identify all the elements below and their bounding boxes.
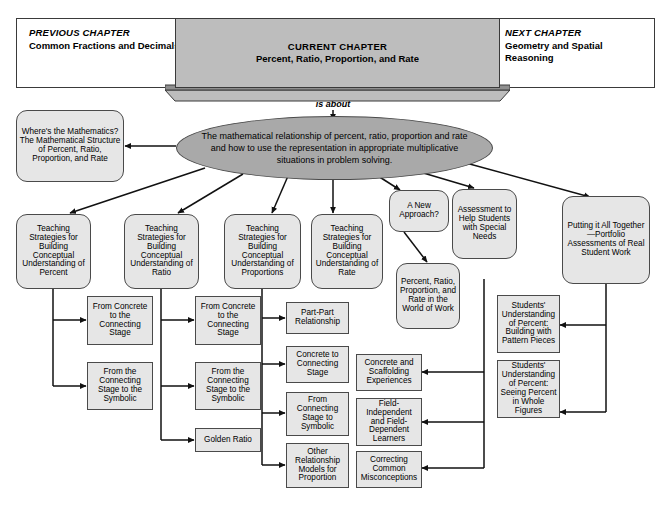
proportions-child-label: From Connecting Stage to Symbolic [287, 396, 348, 431]
branch-teaching-strategies-percent: Teaching Strategies for Building Concept… [16, 214, 91, 289]
branch-portfolio-assessments: Putting it All Together—Portfolio Assess… [562, 196, 650, 284]
current-chapter-kicker: CURRENT CHAPTER [286, 42, 390, 52]
assessment-child-label: Correcting Common Misconceptions [357, 456, 421, 483]
branch-label: Assessment to Help Students with Special… [453, 206, 516, 241]
proportions-child-box: Other Relationship Models for Proportion [286, 443, 349, 488]
percent-child-box: From the Connecting Stage to the Symboli… [87, 362, 153, 410]
current-chapter-card: CURRENT CHAPTER Percent, Ratio, Proporti… [175, 18, 500, 88]
current-chapter-title: Percent, Ratio, Proportion, and Rate [254, 54, 421, 64]
branch-label: Putting it All Together—Portfolio Assess… [563, 222, 649, 257]
proportions-child-box: From Connecting Stage to Symbolic [286, 392, 349, 436]
next-chapter-card: NEXT CHAPTER Geometry and Spatial Reason… [492, 18, 655, 88]
branch-a-new-approach: A New Approach? [389, 190, 449, 232]
branch-label: Teaching Strategies for Building Concept… [312, 225, 382, 278]
ratio-child-box: Golden Ratio [195, 428, 261, 452]
ratio-child-label: From Concrete to the Connecting Stage [196, 303, 260, 338]
next-chapter-title: Geometry and Spatial Reasoning [503, 40, 646, 64]
portfolio-child-box: Students' Understanding of Percent: Buil… [497, 295, 560, 353]
previous-chapter-title: Common Fractions and Decimals [27, 40, 193, 52]
central-concept-text: The mathematical relationship of percent… [177, 130, 492, 166]
ratio-child-label: Golden Ratio [202, 436, 254, 445]
previous-chapter-kicker: PREVIOUS CHAPTER [27, 28, 193, 38]
assessment-child-label: Concrete and Scaffolding Experiences [357, 359, 421, 386]
portfolio-child-box: Students' Understanding of Percent: Seei… [497, 360, 560, 418]
branch-assessment-special-needs: Assessment to Help Students with Special… [452, 189, 517, 259]
world-of-work-box: Percent, Ratio, Proportion, and Rate in … [396, 263, 460, 329]
percent-child-label: From the Connecting Stage to the Symboli… [88, 368, 152, 403]
branch-label: A New Approach? [390, 202, 448, 220]
assessment-child-box: Concrete and Scaffolding Experiences [356, 354, 422, 391]
proportions-child-label: Other Relationship Models for Proportion [287, 448, 348, 483]
ratio-child-box: From the Connecting Stage to the Symboli… [195, 362, 261, 410]
branch-label: Teaching Strategies for Building Concept… [17, 225, 90, 278]
assessment-child-label: Field-Independent and Field-Dependent Le… [357, 400, 421, 444]
ratio-child-box: From Concrete to the Connecting Stage [195, 296, 261, 345]
branch-teaching-strategies-proportions: Teaching Strategies for Building Concept… [224, 214, 301, 289]
portfolio-child-label: Students' Understanding of Percent: Seei… [498, 362, 559, 415]
ratio-child-label: From the Connecting Stage to the Symboli… [196, 368, 260, 403]
proportions-child-label: Part-Part Relationship [287, 309, 348, 327]
branch-teaching-strategies-ratio: Teaching Strategies for Building Concept… [124, 214, 199, 289]
portfolio-child-label: Students' Understanding of Percent: Buil… [498, 302, 559, 346]
wheres-the-mathematics-text: Where's the Mathematics? The Mathematica… [17, 128, 123, 163]
branch-teaching-strategies-rate: Teaching Strategies for Building Concept… [311, 214, 383, 289]
percent-child-box: From Concrete to the Connecting Stage [87, 296, 153, 345]
diagram-canvas: PREVIOUS CHAPTER Common Fractions and De… [0, 0, 667, 521]
branch-label: Teaching Strategies for Building Concept… [225, 225, 300, 278]
proportions-child-label: Concrete to Connecting Stage [287, 351, 348, 378]
assessment-child-box: Correcting Common Misconceptions [356, 451, 422, 488]
central-concept-oval: The mathematical relationship of percent… [176, 116, 493, 180]
proportions-child-box: Part-Part Relationship [286, 302, 349, 334]
assessment-child-box: Field-Independent and Field-Dependent Le… [356, 398, 422, 446]
next-chapter-kicker: NEXT CHAPTER [503, 28, 646, 38]
wheres-the-mathematics-box: Where's the Mathematics? The Mathematica… [16, 110, 124, 182]
percent-child-label: From Concrete to the Connecting Stage [88, 303, 152, 338]
proportions-child-box: Concrete to Connecting Stage [286, 346, 349, 383]
world-of-work-text: Percent, Ratio, Proportion, and Rate in … [397, 278, 459, 313]
branch-label: Teaching Strategies for Building Concept… [125, 225, 198, 278]
